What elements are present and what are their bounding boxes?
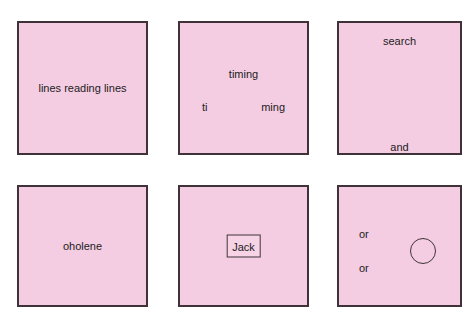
label-ming: ming xyxy=(261,102,285,113)
label-or-second: or xyxy=(359,263,369,274)
circle-outline-shape xyxy=(410,238,436,264)
label-oholene: oholene xyxy=(63,241,102,252)
panel-bottom-left: oholene xyxy=(17,185,148,307)
label-lines-reading-lines: lines reading lines xyxy=(38,83,126,94)
label-ti: ti xyxy=(202,102,208,113)
label-timing: timing xyxy=(229,69,258,80)
label-or-first: or xyxy=(359,229,369,240)
panel-grid-canvas: lines reading lines timing ti ming searc… xyxy=(0,0,475,328)
label-and: and xyxy=(390,142,408,153)
panel-top-center: timing ti ming xyxy=(178,21,309,155)
panel-top-right: search and xyxy=(337,21,462,155)
label-search: search xyxy=(383,36,416,47)
panel-bottom-right: or or xyxy=(337,185,462,307)
panel-top-left: lines reading lines xyxy=(17,21,148,155)
label-jack: Jack xyxy=(232,241,255,253)
panel-bottom-center: Jack xyxy=(178,185,309,307)
jack-box-outline: Jack xyxy=(226,235,261,258)
